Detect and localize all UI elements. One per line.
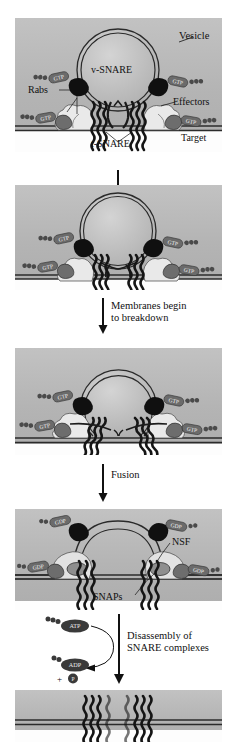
rab-lower-right: GTP (165, 112, 217, 130)
svg-text:ADP: ADP (69, 661, 82, 668)
panel-hemifusion-graphic: GTP GTP GTP (15, 348, 222, 455)
label-v-snare: v-SNARE (91, 64, 132, 75)
transition-4: ATP ADP + P Disassembly of SNARE complex… (15, 614, 222, 686)
panel-tethered: GTP GTP GTP (15, 185, 222, 290)
rab-lower-right: GTP (163, 261, 215, 279)
svg-text:ATP: ATP (69, 622, 81, 629)
label-nsf: NSF (172, 536, 190, 547)
label-vesicle: Vesicle (179, 30, 209, 41)
svg-text:P: P (71, 676, 74, 682)
transition-1 (15, 156, 222, 182)
panel-docking: GTP GTP GTP (15, 18, 222, 152)
transition-2: Membranes begin to breakdown (15, 294, 222, 336)
label-t-snare: t-SNARE (91, 138, 130, 149)
transition-3: Fusion (15, 460, 222, 504)
label-rabs: Rabs (28, 84, 48, 95)
label-snaps: SNAPs (93, 591, 122, 602)
adp-token: ADP (52, 656, 90, 672)
svg-text:+: + (57, 674, 62, 684)
rab-lower-right-gdp: GDP (173, 562, 220, 578)
label-effectors: Effectors (173, 96, 209, 107)
panel-tethered-graphic: GTP GTP GTP (15, 185, 222, 290)
transition-2-label: Membranes begin to breakdown (111, 300, 187, 324)
panel-hemifusion: GTP GTP GTP (15, 348, 222, 455)
panel-fused: GDP GDP GDP (15, 509, 222, 610)
transition-3-label: Fusion (111, 469, 140, 481)
label-target: Target (181, 132, 206, 143)
panel-disassembled-graphic (15, 690, 222, 742)
rab-lower-right: GTP (166, 420, 218, 438)
transition-4-label: Disassembly of SNARE complexes (127, 630, 209, 654)
atp-token: ATP (46, 617, 90, 633)
phosphate-token: + P (57, 674, 78, 685)
snare-fusion-figure: GTP GTP GTP (0, 0, 236, 751)
panel-disassembled (15, 690, 222, 742)
rab-upper-left-gdp: GDP (39, 513, 89, 541)
